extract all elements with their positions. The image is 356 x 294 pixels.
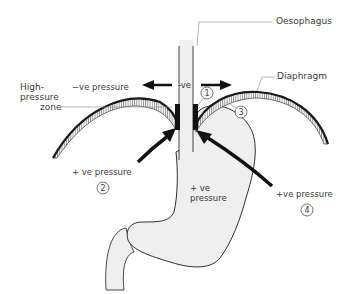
oesophagus-label: Oesophagus [276, 16, 332, 26]
oesophagus [179, 40, 193, 160]
high-pressure-zone-label-line2: pressure [20, 92, 59, 102]
sphincter-right-bar [193, 104, 198, 130]
svg-text:1: 1 [204, 89, 209, 98]
marker-1-leader-line [198, 98, 203, 106]
marker-4: 4 [301, 204, 313, 216]
pos-pressure-right-label: +ve pressure [276, 189, 333, 199]
pos-pressure-left-label: + ve pressure [72, 167, 132, 177]
pos-pressure-stomach-label-line2: pressure [190, 193, 227, 203]
marker-2: 2 [97, 182, 109, 194]
svg-text:4: 4 [304, 206, 309, 215]
diaphragm-leader-line [257, 77, 275, 91]
svg-text:3: 3 [238, 108, 243, 117]
pos-pressure-left-arrow [138, 128, 176, 162]
oesophagus-leader-line [197, 22, 272, 46]
marker-3: 3 [235, 106, 247, 118]
svg-text:2: 2 [100, 184, 105, 193]
sphincter-left-bar [175, 104, 180, 130]
neg-pressure-left-arrow [142, 80, 172, 90]
diaphragm-left [53, 99, 178, 158]
high-pressure-zone-label-line3: zone [40, 102, 62, 112]
neg-pressure-center-label: -ve [178, 80, 191, 90]
neg-pressure-left-label: −ve pressure [72, 82, 129, 92]
pos-pressure-stomach-label-line1: + ve [190, 183, 210, 193]
high-pressure-zone-label-line1: High- [20, 82, 44, 92]
marker-1: 1 [201, 87, 213, 99]
diaphragm-label: Diaphragm [277, 71, 327, 81]
gastro-oesophageal-junction-diagram: Oesophagus Diaphragm High- pressure zone… [0, 0, 356, 294]
